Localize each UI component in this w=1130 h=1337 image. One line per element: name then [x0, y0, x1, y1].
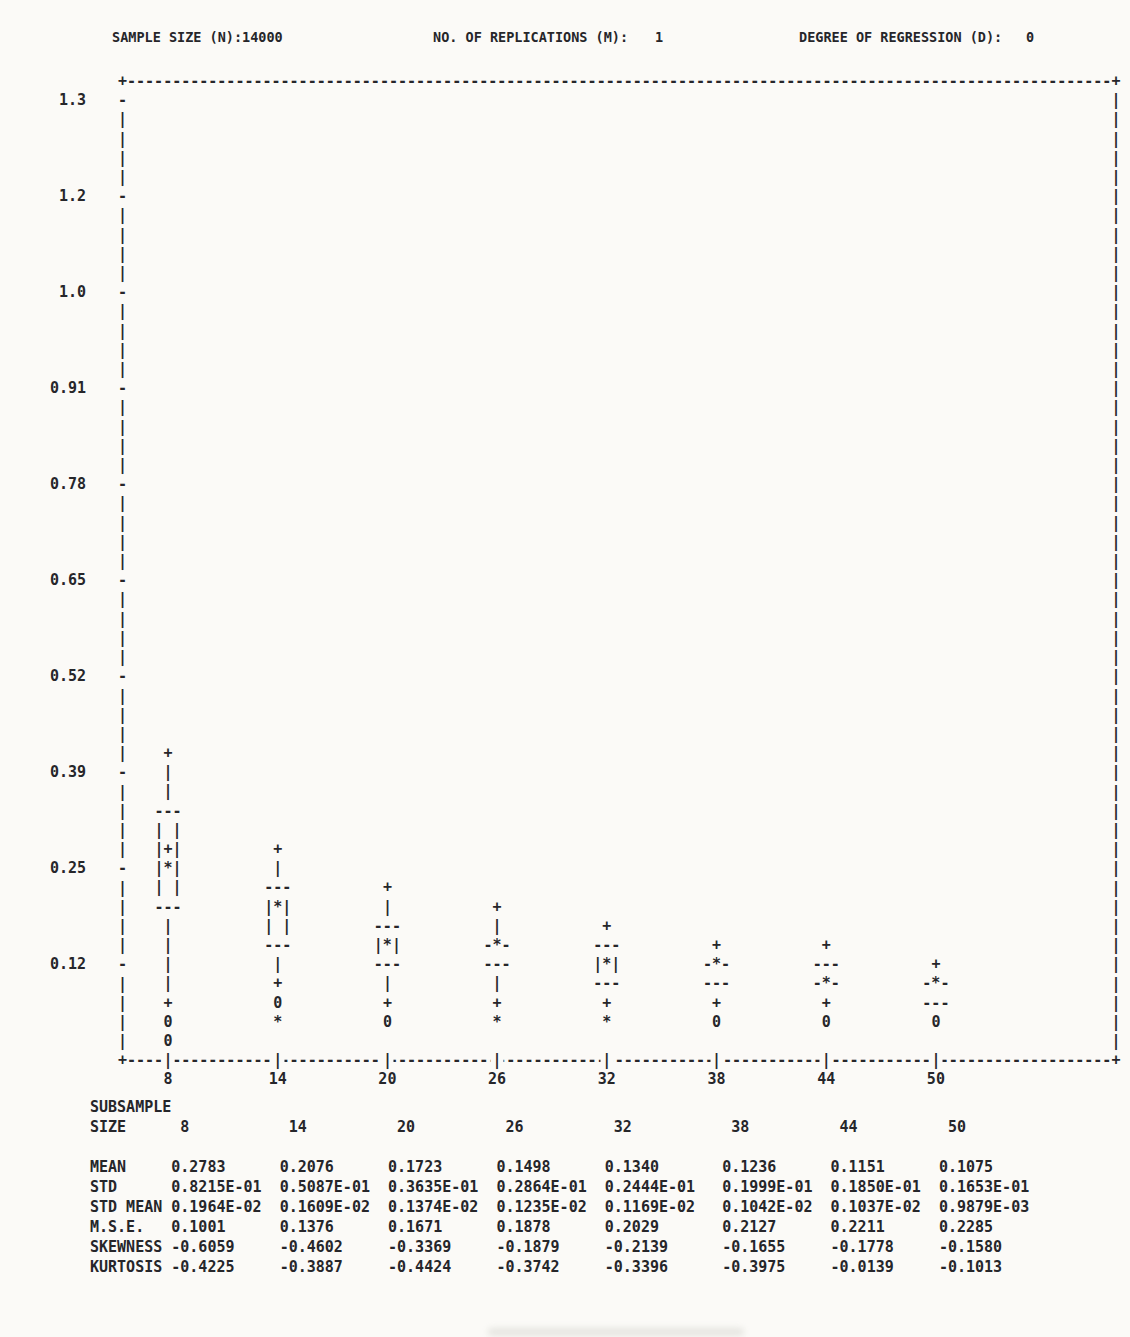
- point-marker: +: [163, 994, 172, 1013]
- outlier-marker: 0: [163, 1013, 172, 1032]
- box-edge: ---: [264, 878, 291, 897]
- outlier-marker: 0: [931, 1013, 940, 1032]
- scan-artifact: [488, 1328, 744, 1336]
- point-marker: +: [273, 974, 282, 993]
- y-tick-label: 0.65: [0, 571, 86, 590]
- point-marker: +: [273, 840, 282, 859]
- sample-size-value: 14000: [242, 29, 283, 45]
- boxplot-field: +||---| ||+||*|| |---||||+00|8+|---|*|| …: [118, 72, 1121, 1102]
- point-marker: +: [712, 994, 721, 1013]
- outlier-marker: 0: [712, 1013, 721, 1032]
- box-edge: ---: [154, 802, 181, 821]
- box-edge: ---: [593, 974, 620, 993]
- median-marker: |*|: [154, 859, 181, 878]
- x-tick: |: [600, 1051, 613, 1070]
- box-edge: ---: [374, 917, 401, 936]
- point-marker: +: [383, 994, 392, 1013]
- box-edge: ---: [813, 955, 840, 974]
- whisker: |: [163, 782, 172, 801]
- box-edge: ---: [703, 974, 730, 993]
- stats-row-std: STD 0.8215E-01 0.5087E-01 0.3635E-01 0.2…: [90, 1177, 1029, 1197]
- whisker: |: [273, 859, 282, 878]
- whisker: |: [493, 974, 502, 993]
- whisker: |: [383, 974, 392, 993]
- point-marker: +: [931, 955, 940, 974]
- median-marker: -*-: [484, 936, 511, 955]
- box-sides: | |: [154, 878, 181, 897]
- x-tick: |: [929, 1051, 942, 1070]
- y-tick-label: 0.12: [0, 955, 86, 974]
- stats-row-skewness: SKEWNESS -0.6059 -0.4602 -0.3369 -0.1879…: [90, 1237, 1029, 1257]
- y-tick-label: 0.39: [0, 763, 86, 782]
- point-marker: +: [493, 898, 502, 917]
- x-tick: |: [161, 1051, 174, 1070]
- box-edge: ---: [374, 955, 401, 974]
- whisker: |: [493, 917, 502, 936]
- median-marker: |*|: [374, 936, 401, 955]
- x-tick-label: 20: [378, 1070, 396, 1089]
- box-edge: ---: [484, 955, 511, 974]
- subsample-stats-table: SUBSAMPLESIZE 8 14 20 26 32 38 44 50MEAN…: [90, 1097, 1029, 1277]
- x-tick: |: [820, 1051, 833, 1070]
- stats-row-std-mean: STD MEAN 0.1964E-02 0.1609E-02 0.1374E-0…: [90, 1197, 1029, 1217]
- point-marker: +: [602, 994, 611, 1013]
- point-marker: +: [822, 936, 831, 955]
- outlier-marker: 0: [273, 994, 282, 1013]
- whisker: |: [383, 898, 392, 917]
- y-tick-label: 0.25: [0, 859, 86, 878]
- x-tick-label: 26: [488, 1070, 506, 1089]
- whisker: |: [163, 974, 172, 993]
- stats-row-mean: MEAN 0.2783 0.2076 0.1723 0.1498 0.1340 …: [90, 1157, 1029, 1177]
- whisker: |: [163, 936, 172, 955]
- median-marker: -*-: [703, 955, 730, 974]
- sample-size-label: SAMPLE SIZE (N):: [112, 29, 242, 45]
- y-tick-label: 0.91: [0, 379, 86, 398]
- far-outlier-marker: *: [273, 1013, 282, 1032]
- stats-row-m-s-e-: M.S.E. 0.1001 0.1376 0.1671 0.1878 0.202…: [90, 1217, 1029, 1237]
- table-size-header-row: SIZE 8 14 20 26 32 38 44 50: [90, 1117, 1029, 1137]
- box-edge: ---: [922, 994, 949, 1013]
- y-tick-label: 1.3: [0, 91, 86, 110]
- point-marker: +: [383, 878, 392, 897]
- point-marker: +: [602, 917, 611, 936]
- point-marker: +: [493, 994, 502, 1013]
- far-outlier-marker: *: [602, 1013, 611, 1032]
- point-marker: +: [822, 994, 831, 1013]
- x-tick-label: 32: [598, 1070, 616, 1089]
- x-tick: |: [491, 1051, 504, 1070]
- x-tick-label: 44: [817, 1070, 835, 1089]
- far-outlier-marker: *: [493, 1013, 502, 1032]
- box-sides: | |: [154, 821, 181, 840]
- x-tick-label: 8: [163, 1070, 172, 1089]
- table-title: SUBSAMPLE: [90, 1097, 1029, 1117]
- x-tick-label: 38: [707, 1070, 725, 1089]
- whisker: |: [273, 955, 282, 974]
- median-marker: |*|: [593, 955, 620, 974]
- outlier-marker: 0: [383, 1013, 392, 1032]
- whisker: |: [163, 955, 172, 974]
- x-tick: |: [271, 1051, 284, 1070]
- box-edge: ---: [264, 936, 291, 955]
- whisker: |: [163, 917, 172, 936]
- median-marker: -*-: [813, 974, 840, 993]
- stats-row-kurtosis: KURTOSIS -0.4225 -0.3887 -0.4424 -0.3742…: [90, 1257, 1029, 1277]
- mean-marker: |+|: [154, 840, 181, 859]
- sample-size-field: SAMPLE SIZE (N):14000: [112, 29, 283, 45]
- x-tick-label: 50: [927, 1070, 945, 1089]
- replications-value: 1: [655, 29, 663, 45]
- whisker: |: [163, 763, 172, 782]
- y-tick-label: 0.78: [0, 475, 86, 494]
- regression-degree-label: DEGREE OF REGRESSION (D):: [799, 29, 1002, 45]
- box-edge: ---: [593, 936, 620, 955]
- point-marker: +: [163, 744, 172, 763]
- outlier-marker: 0: [163, 1032, 172, 1051]
- x-tick: |: [710, 1051, 723, 1070]
- table-spacer-row: [90, 1137, 1029, 1157]
- y-tick-label: 1.0: [0, 283, 86, 302]
- x-tick-label: 14: [269, 1070, 287, 1089]
- regression-degree-value: 0: [1026, 29, 1034, 45]
- y-tick-label: 1.2: [0, 187, 86, 206]
- printer-plot-page: SAMPLE SIZE (N):14000 NO. OF REPLICATION…: [0, 0, 1130, 1337]
- box-sides: | |: [264, 917, 291, 936]
- replications-label: NO. OF REPLICATIONS (M):: [433, 29, 628, 45]
